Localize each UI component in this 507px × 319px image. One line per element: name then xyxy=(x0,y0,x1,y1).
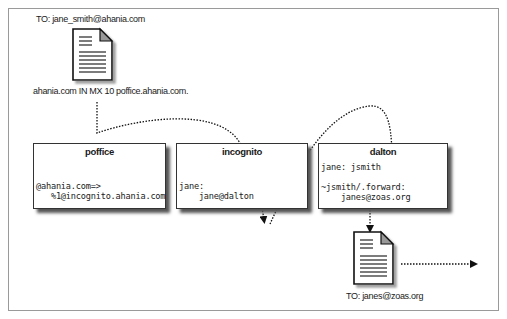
host-alias-line: jane: jsmith xyxy=(321,162,381,172)
host-title-dalton: dalton xyxy=(285,146,447,157)
host-dalton: dalton jane: jsmith ~jsmith/.forward: ja… xyxy=(318,143,448,209)
host-forward-line: ~jsmith/.forward: xyxy=(321,182,406,192)
host-title-poffice: poffice xyxy=(20,146,165,157)
host-alias-line: jane@dalton xyxy=(179,191,254,201)
host-rule-line: @ahania.com=> xyxy=(36,181,101,191)
outgoing-to-label: TO: janes@zoas.org xyxy=(346,291,423,301)
host-forward-line: janes@zoas.org xyxy=(321,192,411,202)
host-alias-line: jane: xyxy=(179,181,204,191)
mx-record-label: ahania.com IN MX 10 poffice.ahania.com. xyxy=(33,86,188,96)
host-poffice: poffice @ahania.com=> %1@incognito.ahani… xyxy=(33,143,166,209)
host-rule-line: %1@incognito.ahania.com xyxy=(36,191,165,201)
